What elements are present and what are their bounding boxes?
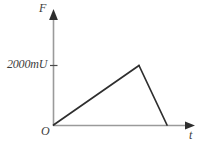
origin-label: O — [41, 124, 50, 139]
y-axis-arrowhead-icon — [49, 9, 58, 20]
y-tick-label-2000: 2000mU — [7, 57, 47, 72]
curve-segment-rising — [54, 66, 140, 126]
figure-container: F t O 2000mU — [0, 0, 203, 145]
f-t-line-chart — [0, 0, 203, 145]
x-axis-label: t — [189, 128, 192, 143]
curve-segment-falling — [139, 66, 167, 126]
y-axis-label: F — [39, 1, 46, 16]
